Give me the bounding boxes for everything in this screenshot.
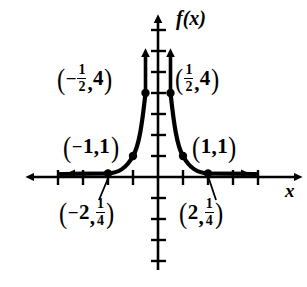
fraction-denominator: 2 bbox=[78, 80, 87, 94]
fraction-one-half: 1 2 bbox=[77, 63, 86, 94]
x-value: 1 bbox=[201, 136, 211, 157]
fraction-one-half: 1 2 bbox=[184, 63, 193, 94]
point-label-neg2-quarter: ( − 2 , 1 4 ) bbox=[58, 197, 115, 228]
fraction-one-quarter: 1 4 bbox=[205, 197, 214, 228]
x-value: 2 bbox=[188, 202, 198, 223]
point-label-pos1-1: ( 1 , 1 ) bbox=[191, 136, 237, 160]
minus-sign: − bbox=[68, 203, 79, 222]
minus-sign: − bbox=[72, 137, 83, 156]
point-label-neg-half-4: ( − 1 2 , 4 ) bbox=[56, 63, 113, 94]
minus-sign: − bbox=[66, 69, 77, 88]
comma: , bbox=[90, 207, 95, 228]
close-paren: ) bbox=[215, 202, 223, 224]
fraction-numerator: 1 bbox=[78, 63, 87, 77]
plot-canvas bbox=[0, 0, 307, 287]
point-pos1-1 bbox=[179, 152, 187, 160]
close-paren: ) bbox=[211, 68, 219, 90]
comma: , bbox=[212, 137, 217, 158]
fraction-one-quarter: 1 4 bbox=[96, 197, 105, 228]
comma: , bbox=[194, 73, 199, 94]
curve-right-branch bbox=[171, 93, 257, 174]
open-paren: ( bbox=[192, 136, 200, 158]
fraction-numerator: 1 bbox=[184, 63, 193, 77]
comma: , bbox=[199, 207, 204, 228]
open-paren: ( bbox=[57, 68, 65, 90]
point-neg1-1 bbox=[129, 152, 137, 160]
y-axis-label: f(x) bbox=[176, 8, 206, 28]
x-value: 1 bbox=[83, 136, 93, 157]
fraction-numerator: 1 bbox=[205, 197, 214, 211]
close-paren: ) bbox=[228, 136, 236, 158]
close-paren: ) bbox=[106, 202, 114, 224]
fraction-denominator: 4 bbox=[205, 214, 214, 228]
point-label-pos-half-4: ( 1 2 , 4 ) bbox=[174, 63, 220, 94]
graph-figure: ( − 1 2 , 4 ) ( 1 2 , 4 ) ( bbox=[0, 0, 307, 287]
y-value: 4 bbox=[200, 68, 210, 89]
point-label-pos2-quarter: ( 2 , 1 4 ) bbox=[178, 197, 224, 228]
y-value: 1 bbox=[217, 136, 227, 157]
open-paren: ( bbox=[59, 202, 67, 224]
fraction-denominator: 2 bbox=[184, 80, 193, 94]
open-paren: ( bbox=[63, 136, 71, 158]
fraction-denominator: 4 bbox=[96, 214, 105, 228]
x-axis-label: x bbox=[285, 181, 295, 200]
open-paren: ( bbox=[179, 202, 187, 224]
open-paren: ( bbox=[175, 68, 183, 90]
comma: , bbox=[87, 73, 92, 94]
x-value: 2 bbox=[79, 202, 89, 223]
fraction-numerator: 1 bbox=[96, 197, 105, 211]
y-value: 1 bbox=[99, 136, 109, 157]
point-label-neg1-1: ( − 1 , 1 ) bbox=[62, 136, 119, 160]
point-neg-half-4 bbox=[141, 89, 149, 97]
close-paren: ) bbox=[104, 68, 112, 90]
comma: , bbox=[94, 137, 99, 158]
y-value: 4 bbox=[93, 68, 103, 89]
close-paren: ) bbox=[111, 136, 119, 158]
